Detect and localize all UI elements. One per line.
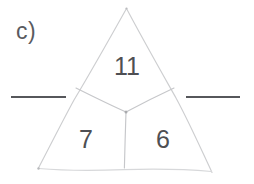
divider-stem xyxy=(124,112,126,168)
junction-dot xyxy=(125,111,128,114)
number-triangle-figure xyxy=(0,0,254,184)
worksheet-canvas: c) 11 7 6 xyxy=(0,0,254,184)
divider-left-branch xyxy=(76,88,126,112)
triangle-base-edge xyxy=(39,169,212,172)
exercise-item-label: c) xyxy=(16,20,36,43)
cell-number-bottom-right: 6 xyxy=(156,127,170,152)
apex-dot xyxy=(125,7,127,9)
bottom-left-dot xyxy=(37,167,39,169)
divider-right-branch xyxy=(126,88,174,112)
cell-number-top: 11 xyxy=(114,54,140,79)
cell-number-bottom-left: 7 xyxy=(79,127,93,152)
